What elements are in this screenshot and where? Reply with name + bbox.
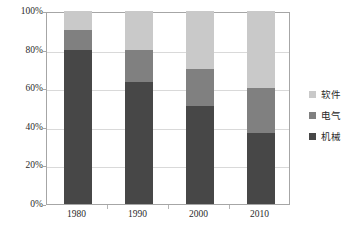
stacked-bar-chart: 0%20%40%60%80%100% 1980199020002010 软件电气…	[0, 0, 356, 241]
x-axis-tick-label: 2010	[230, 210, 290, 220]
plot-area	[46, 12, 290, 205]
legend-label: 机械	[321, 132, 341, 142]
x-axis-tick-mark	[168, 205, 169, 209]
y-axis-tick-label: 80%	[26, 46, 43, 56]
x-axis-tick-mark	[229, 205, 230, 209]
bar-group[interactable]	[247, 11, 275, 204]
y-axis-tick-label: 100%	[21, 7, 43, 17]
legend-item[interactable]: 机械	[309, 126, 355, 147]
legend-label: 电气	[321, 111, 341, 121]
y-axis-tick-label: 20%	[26, 161, 43, 171]
x-axis-tick-label: 1980	[47, 210, 107, 220]
bar-group[interactable]	[64, 11, 92, 204]
legend-label: 软件	[321, 90, 341, 100]
bar-segment[interactable]	[186, 11, 214, 69]
bar-segment[interactable]	[186, 106, 214, 204]
y-axis-tick-label: 40%	[26, 123, 43, 133]
bar-segment[interactable]	[247, 11, 275, 88]
bar-segment[interactable]	[125, 50, 153, 83]
bar-segment[interactable]	[125, 82, 153, 204]
x-axis-tick-mark	[107, 205, 108, 209]
bar-segment[interactable]	[186, 69, 214, 106]
bar-group[interactable]	[186, 11, 214, 204]
y-axis-tick-mark	[42, 205, 46, 206]
legend-swatch-icon	[309, 133, 316, 140]
x-axis-tick-label: 2000	[169, 210, 229, 220]
bar-segment[interactable]	[64, 11, 92, 30]
bar-group[interactable]	[125, 11, 153, 204]
bar-segment[interactable]	[247, 133, 275, 204]
legend-swatch-icon	[309, 91, 316, 98]
legend-swatch-icon	[309, 112, 316, 119]
bar-segment[interactable]	[125, 11, 153, 50]
bar-segment[interactable]	[247, 88, 275, 132]
x-axis-tick-label: 1990	[108, 210, 168, 220]
chart-legend: 软件电气机械	[309, 84, 355, 147]
bar-segment[interactable]	[64, 30, 92, 49]
y-axis-tick-label: 60%	[26, 84, 43, 94]
bar-segment[interactable]	[64, 50, 92, 204]
legend-item[interactable]: 电气	[309, 105, 355, 126]
legend-item[interactable]: 软件	[309, 84, 355, 105]
